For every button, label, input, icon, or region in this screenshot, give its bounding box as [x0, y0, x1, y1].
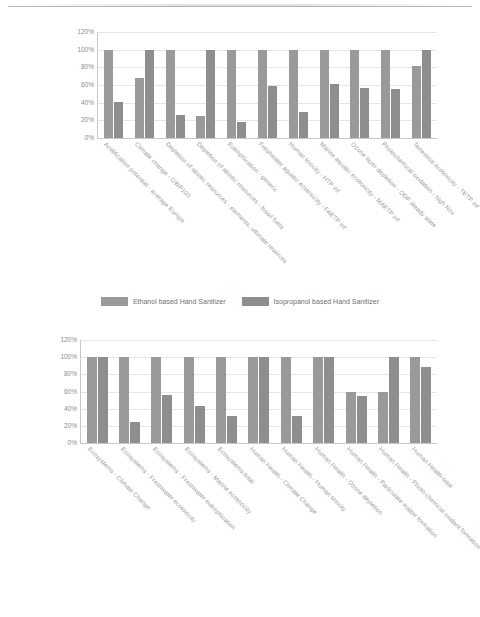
bar: [237, 122, 246, 138]
bar: [381, 50, 390, 138]
x-axis-tick-label: Human Health - Human toxicity: [281, 446, 348, 513]
bar: [330, 84, 339, 138]
bar: [206, 50, 215, 138]
bar: [166, 50, 175, 138]
bar: [98, 357, 108, 443]
top-legend: Ethanol based Hand SanitizerIsopropanol …: [0, 297, 480, 306]
legend-swatch: [101, 297, 128, 306]
bar-group: [129, 32, 160, 138]
bar-group: [375, 32, 406, 138]
bar: [360, 88, 369, 138]
bar: [268, 86, 277, 138]
legend-item[interactable]: Isopropanol based Hand Sanitizer: [242, 297, 379, 306]
y-axis-tick-label: 0%: [85, 135, 94, 142]
y-axis-tick-label: 40%: [64, 405, 77, 412]
bar: [313, 357, 323, 443]
legend-item[interactable]: Ethanol based Hand Sanitizer: [101, 297, 226, 306]
y-axis-tick-label: 60%: [81, 82, 94, 89]
bar: [119, 357, 129, 443]
bar: [145, 50, 154, 138]
x-axis-tick-label: Depletion of abiotic resources - element…: [164, 141, 288, 265]
bar: [320, 50, 329, 138]
bar: [130, 422, 140, 443]
y-axis-tick-label: 80%: [81, 64, 94, 71]
x-axis-tick-label: Human Health - Ozone depletion: [313, 446, 383, 516]
x-axis-tick-label: Ecosystems - Climate Change: [87, 446, 152, 511]
bar: [258, 50, 267, 138]
y-axis-tick-label: 20%: [64, 423, 77, 430]
top-plot-area: 0%20%40%60%80%100%120% Acidification pot…: [97, 32, 437, 139]
bar: [299, 112, 308, 139]
x-axis-tick-label: Human Health - Climate Change: [248, 446, 318, 516]
bar: [281, 357, 291, 443]
y-axis-tick-label: 60%: [64, 388, 77, 395]
bar-group: [98, 32, 129, 138]
bar-group: [308, 340, 340, 443]
bar-group: [340, 340, 372, 443]
chart-bottom: 0%20%40%60%80%100%120% Ecosystems - Clim…: [0, 322, 480, 617]
bar-group: [405, 340, 437, 443]
bar: [176, 115, 185, 138]
bar-group: [221, 32, 252, 138]
bar: [391, 89, 400, 138]
bar-group: [113, 340, 145, 443]
bar: [135, 78, 144, 138]
bar-group: [190, 32, 221, 138]
bar-group: [178, 340, 210, 443]
bar-group: [243, 340, 275, 443]
bar: [104, 50, 113, 138]
bar: [227, 50, 236, 138]
y-axis-tick-label: 0%: [68, 440, 77, 447]
bottom-x-axis-labels: Ecosystems - Climate ChangeEcosystems - …: [81, 443, 437, 444]
bar-group: [372, 340, 404, 443]
legend-label: Ethanol based Hand Sanitizer: [133, 298, 226, 305]
bar-group: [275, 340, 307, 443]
y-axis-tick-label: 120%: [60, 337, 77, 344]
bar-group: [345, 32, 376, 138]
scanned-page: 0%20%40%60%80%100%120% Acidification pot…: [0, 0, 480, 617]
x-axis-tick-label: Ecosystems - Marine ecotoxicity: [184, 446, 253, 515]
bar: [410, 357, 420, 443]
bar: [389, 357, 399, 443]
bar: [162, 395, 172, 443]
chart-top: 0%20%40%60%80%100%120% Acidification pot…: [0, 14, 480, 314]
bottom-bar-groups: [81, 340, 437, 443]
bar-group: [160, 32, 191, 138]
bar: [289, 50, 298, 138]
page-top-rule: [8, 6, 472, 7]
bottom-plot-area: 0%20%40%60%80%100%120% Ecosystems - Clim…: [80, 340, 437, 444]
bar: [350, 50, 359, 138]
bar: [114, 102, 123, 138]
bar-group: [81, 340, 113, 443]
bar-group: [283, 32, 314, 138]
y-axis-tick-label: 100%: [60, 354, 77, 361]
bar: [412, 66, 421, 138]
bar: [422, 50, 431, 138]
y-axis-tick-label: 120%: [77, 29, 94, 36]
top-bar-groups: [98, 32, 437, 138]
bar: [421, 367, 431, 443]
bar: [292, 416, 302, 443]
x-axis-tick-label: Climate change - GWP100: [134, 141, 192, 199]
legend-swatch: [242, 297, 269, 306]
bar: [259, 357, 269, 443]
bar: [248, 357, 258, 443]
bar-group: [252, 32, 283, 138]
bar: [216, 357, 226, 443]
legend-label: Isopropanol based Hand Sanitizer: [274, 298, 379, 305]
bar: [196, 116, 205, 138]
bar: [324, 357, 334, 443]
bar: [346, 392, 356, 444]
bar: [87, 357, 97, 443]
bar: [195, 406, 205, 443]
bar-group: [146, 340, 178, 443]
y-axis-tick-label: 20%: [81, 117, 94, 124]
bar: [378, 392, 388, 444]
top-x-axis-labels: Acidification potential - average Europe…: [98, 138, 437, 139]
bar-group: [314, 32, 345, 138]
bar: [357, 396, 367, 443]
bar: [184, 357, 194, 443]
y-axis-tick-label: 80%: [64, 371, 77, 378]
y-axis-tick-label: 40%: [81, 99, 94, 106]
bar: [151, 357, 161, 443]
